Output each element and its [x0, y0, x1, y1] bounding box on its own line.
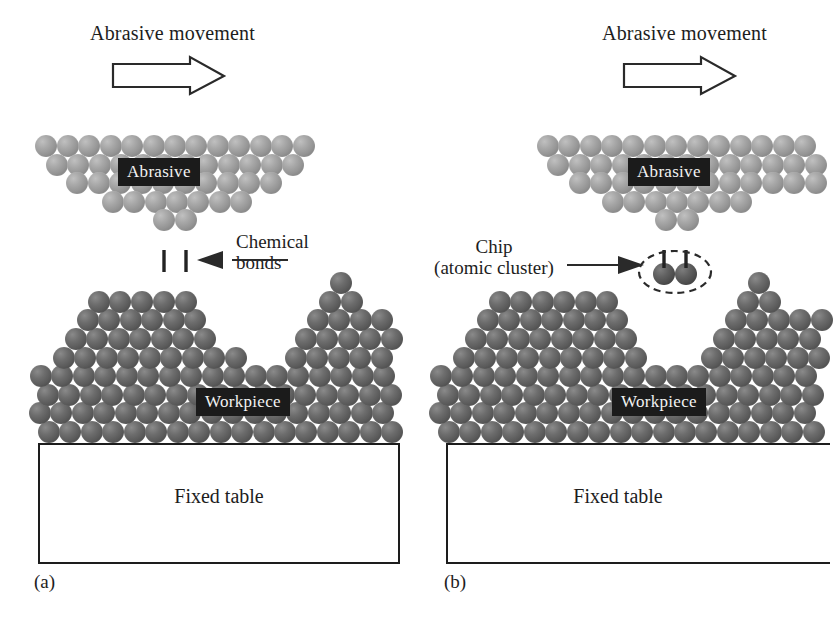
panel-a: Abrasive movement Chemical bonds Abrasiv… — [0, 0, 412, 629]
chip-dashed-ellipse — [412, 0, 824, 629]
panel-b: Abrasive movement Chip (atomic cluster) … — [412, 0, 824, 629]
panel-a-callout-arrow — [0, 0, 412, 629]
